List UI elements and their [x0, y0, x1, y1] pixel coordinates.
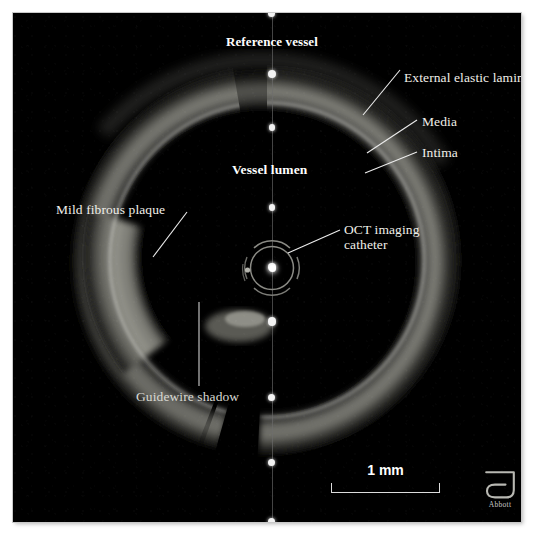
label-guidewire-shadow: Guidewire shadow [136, 389, 239, 405]
scale-bar-caption: 1 mm [331, 462, 440, 478]
oct-scan-image: Reference vessel External elastic lamina… [13, 13, 521, 522]
label-oct-imaging-catheter-line2: catheter [344, 237, 388, 252]
label-vessel-lumen: Vessel lumen [232, 162, 307, 178]
label-oct-imaging-catheter-line1: OCT imaging [344, 222, 419, 237]
abbott-mark-icon [483, 470, 517, 500]
scale-bar: 1 mm [331, 478, 440, 498]
abbott-logo: Abbott [483, 470, 517, 512]
scale-bar-tick-right [439, 483, 440, 493]
scale-bar-line [331, 492, 440, 493]
label-intima: Intima [422, 145, 458, 161]
label-reference-vessel: Reference vessel [226, 34, 318, 50]
speckle-noise [13, 13, 521, 522]
label-oct-imaging-catheter: OCT imaging catheter [344, 222, 419, 252]
label-external-elastic-lamina: External elastic lamina [404, 70, 521, 86]
label-media: Media [422, 114, 457, 130]
oct-scan-frame: Reference vessel External elastic lamina… [13, 13, 521, 522]
abbott-wordmark: Abbott [483, 500, 517, 509]
oct-figure-page: Reference vessel External elastic lamina… [0, 0, 553, 535]
label-mild-fibrous-plaque: Mild fibrous plaque [56, 202, 165, 218]
